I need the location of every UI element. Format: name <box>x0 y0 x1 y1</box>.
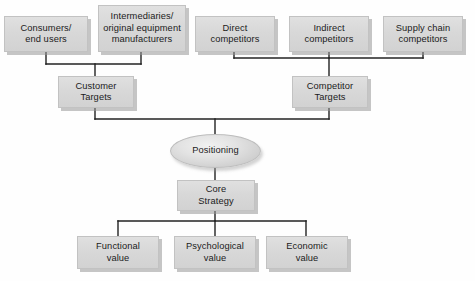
node-label-indirect: Indirectcompetitors <box>302 23 355 46</box>
node-label-supply: Supply chaincompetitors <box>394 23 452 46</box>
node-economic[interactable]: Economicvalue <box>266 236 348 269</box>
node-competitor[interactable]: CompetitorTargets <box>292 76 368 108</box>
node-positioning[interactable]: Positioning <box>170 134 261 168</box>
diagram-canvas: Consumers/end usersIntermediaries/origin… <box>0 0 475 281</box>
node-direct[interactable]: Directcompetitors <box>195 16 275 52</box>
node-label-functional: Functionalvalue <box>94 241 142 264</box>
node-label-core: CoreStrategy <box>196 184 235 207</box>
node-supply[interactable]: Supply chaincompetitors <box>383 16 463 52</box>
node-label-positioning: Positioning <box>190 145 241 156</box>
node-label-intermediaries: Intermediaries/original equipmentmanufac… <box>101 11 183 45</box>
node-psychological[interactable]: Psychologicalvalue <box>174 236 256 269</box>
node-consumers[interactable]: Consumers/end users <box>4 16 88 52</box>
node-label-competitor: CompetitorTargets <box>305 81 355 104</box>
node-indirect[interactable]: Indirectcompetitors <box>289 16 369 52</box>
node-label-economic: Economicvalue <box>284 241 330 264</box>
node-label-direct: Directcompetitors <box>208 23 261 46</box>
node-label-consumers: Consumers/end users <box>18 23 73 46</box>
node-label-psychological: Psychologicalvalue <box>184 241 246 264</box>
node-core[interactable]: CoreStrategy <box>177 180 255 211</box>
node-customer[interactable]: CustomerTargets <box>58 76 134 108</box>
node-label-customer: CustomerTargets <box>73 81 118 104</box>
node-intermediaries[interactable]: Intermediaries/original equipmentmanufac… <box>98 5 186 52</box>
node-functional[interactable]: Functionalvalue <box>77 236 159 269</box>
